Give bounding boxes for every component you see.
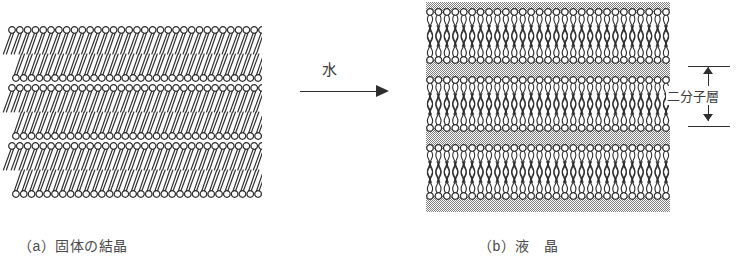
right-arrow-icon (376, 85, 389, 97)
dimension-cap-bottom (688, 126, 730, 127)
caption-panel-b: （b）液 晶 (478, 235, 559, 255)
bilayer-dimension-annotation: 二分子層 (668, 60, 748, 134)
arrow-shaft (300, 91, 380, 92)
down-arrow-icon (703, 114, 713, 121)
up-arrow-icon (703, 67, 713, 74)
panel-solid-crystal (0, 20, 262, 200)
panel-liquid-crystal (424, 0, 670, 216)
lipid-lattice-liquid (427, 9, 670, 200)
figure-canvas: 水 (0, 0, 748, 269)
dimension-label-bilayer: 二分子層 (666, 86, 720, 105)
lipid-lattice-solid (3, 27, 262, 198)
arrow-label-water: 水 (322, 58, 337, 79)
reaction-arrow-group: 水 (296, 58, 396, 103)
caption-panel-a: （a）固体の結晶 (18, 235, 128, 255)
